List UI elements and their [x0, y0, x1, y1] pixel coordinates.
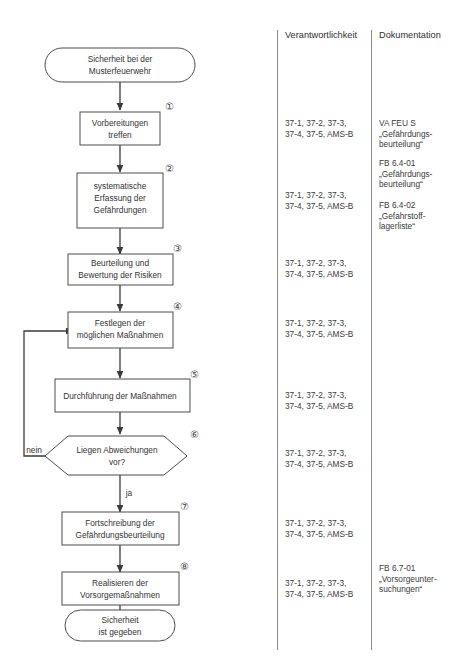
responsibility-cell-8: 37-1, 37-2, 37-3, 37-4, 37-5, AMS-B	[285, 578, 353, 599]
step-1-line1: Vorbereitungen	[92, 118, 149, 128]
start-node-line2: Musterfeuerwehr	[89, 66, 151, 76]
divider-documentation	[371, 30, 372, 650]
divider-responsibility	[277, 30, 278, 650]
column-header-responsibility: Verantwortlichkeit	[285, 30, 357, 40]
flowchart-page: Sicherheit bei der Musterfeuerwehr Vorbe…	[0, 0, 471, 663]
step-2-line2: Erfassung der	[94, 193, 146, 203]
responsibility-cell-6: 37-1, 37-2, 37-3, 37-4, 37-5, AMS-B	[285, 448, 353, 469]
responsibility-cell-7: 37-1, 37-2, 37-3, 37-4, 37-5, AMS-B	[285, 518, 353, 539]
step-2-line1: systematische	[94, 181, 147, 191]
step-1-shape	[80, 112, 160, 145]
step-number-8: ⑧	[180, 561, 189, 572]
end-node-line1: Sicherheit	[102, 615, 140, 625]
responsibility-cell-3: 37-1, 37-2, 37-3, 37-4, 37-5, AMS-B	[285, 258, 353, 279]
step-8-shape	[62, 572, 179, 605]
responsibility-cell-5: 37-1, 37-2, 37-3, 37-4, 37-5, AMS-B	[285, 390, 353, 411]
end-node-line2: ist gegeben	[99, 627, 142, 637]
step-number-1: ①	[165, 101, 174, 112]
decision-6-shape	[45, 436, 187, 475]
step-3-line1: Beurteilung und	[91, 258, 150, 268]
branch-label-no: nein	[26, 445, 42, 455]
responsibility-cell-1: 37-1, 37-2, 37-3, 37-4, 37-5, AMS-B	[285, 118, 353, 139]
responsibility-cell-2: 37-1, 37-2, 37-3, 37-4, 37-5, AMS-B	[285, 190, 353, 211]
start-node-line1: Sicherheit bei der	[88, 54, 153, 64]
step-5-line1: Durchführung der Maßnahmen	[63, 391, 177, 401]
branch-label-yes: ja	[125, 488, 133, 498]
step-number-6: ⑥	[190, 429, 199, 440]
documentation-cell-3: FB 6.4-02 „Gefahrstoff- lagerliste“	[379, 200, 425, 232]
documentation-cell-1: VA FEU S „Gefährdungs- beurteilung“	[379, 118, 433, 150]
step-8-line1: Realisieren der	[92, 578, 148, 588]
step-4-line1: Festlegen der	[95, 318, 146, 328]
step-7-line1: Fortschreibung der	[85, 518, 155, 528]
step-8-line2: Vorsorgemaßnahmen	[80, 590, 160, 600]
decision-6-line2: vor?	[109, 457, 126, 467]
step-number-5: ⑤	[190, 369, 199, 380]
step-number-7: ⑦	[180, 501, 189, 512]
step-number-2: ②	[165, 163, 174, 174]
step-7-line2: Gefährdungsbeurteilung	[75, 530, 164, 540]
responsibility-cell-4: 37-1, 37-2, 37-3, 37-4, 37-5, AMS-B	[285, 318, 353, 339]
step-2-line3: Gefährdungen	[93, 205, 146, 215]
documentation-cell-2: FB 6.4-01 „Gefährdungs- beurteilung“	[379, 158, 433, 190]
step-number-3: ③	[173, 243, 182, 254]
step-7-shape	[62, 512, 179, 545]
step-4-line2: möglichen Maßnahmen	[77, 330, 164, 340]
decision-6-line1: Liegen Abweichungen	[76, 445, 158, 455]
step-3-line2: Bewertung der Risiken	[78, 270, 162, 280]
step-1-line2: treffen	[108, 130, 132, 140]
column-header-documentation: Dokumentation	[379, 30, 441, 40]
step-number-4: ④	[173, 301, 182, 312]
documentation-cell-4: FB 6.7-01 „Vorsorgeunter- suchungen“	[379, 563, 437, 595]
